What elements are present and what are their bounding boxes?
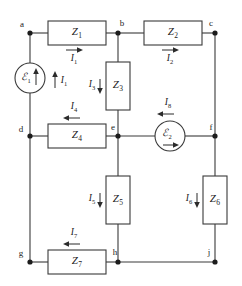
current-label-i4: I4 (71, 102, 77, 113)
circuit-schematic-canvas (0, 0, 242, 286)
node-dot-d (27, 133, 32, 138)
impedance-label-z5: Z5 (113, 193, 123, 207)
current-label-i1-horizontal: I1 (71, 54, 77, 65)
node-label-f: f (210, 123, 213, 132)
emf-source-label-e2: ℰ2 (162, 128, 171, 141)
node-dot-h (115, 259, 120, 264)
current-arrow-i3-down-icon (97, 79, 103, 94)
node-dot-e (115, 133, 120, 138)
current-label-i1-vertical: I1 (61, 76, 67, 87)
current-arrow-i2-right-icon (162, 47, 179, 53)
current-label-i5: I5 (89, 194, 95, 205)
node-label-e: e (111, 123, 115, 132)
current-label-i2: I2 (167, 54, 173, 65)
node-dot-c (212, 30, 217, 35)
node-dot-j (212, 259, 217, 264)
impedance-label-z7: Z7 (72, 255, 82, 269)
impedance-label-z3: Z3 (113, 79, 123, 93)
node-label-g: g (19, 249, 24, 258)
current-arrow-i5-down-icon (97, 193, 103, 208)
impedance-label-z4: Z4 (72, 129, 82, 143)
current-label-i3: I3 (89, 80, 95, 91)
node-label-j: j (208, 248, 211, 257)
node-label-a: a (20, 20, 24, 29)
impedance-label-z1: Z1 (72, 26, 82, 40)
emf-source-label-e1: ℰ1 (21, 72, 30, 85)
impedance-label-z2: Z2 (168, 26, 178, 40)
current-arrow-i1-up-icon (52, 71, 58, 88)
current-arrow-i1-right-icon (66, 47, 83, 53)
node-dot-b (115, 30, 120, 35)
node-label-b: b (120, 19, 125, 28)
node-dot-a (27, 30, 32, 35)
node-dot-g (27, 259, 32, 264)
current-arrow-i7-left-icon (63, 241, 80, 247)
current-arrow-i6-down-icon (194, 193, 200, 208)
node-label-c: c (209, 19, 213, 28)
node-label-h: h (113, 248, 118, 257)
current-arrow-i4-left-icon (63, 115, 80, 121)
node-label-d: d (19, 125, 24, 134)
current-label-i7: I7 (71, 228, 77, 239)
current-label-i8: I8 (165, 98, 171, 109)
current-arrow-i8-left-icon (157, 111, 174, 117)
node-dot-f (212, 133, 217, 138)
impedance-label-z6: Z6 (210, 193, 220, 207)
circuit-diagram: Z1 Z2 Z3 Z4 Z5 Z6 Z7 ℰ1 ℰ2 I1 I1 I2 I3 I… (0, 0, 242, 286)
current-label-i6: I6 (186, 194, 192, 205)
